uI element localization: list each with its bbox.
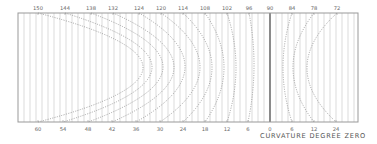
top-label: 102 bbox=[222, 5, 232, 11]
bottom-label: 36 bbox=[133, 126, 140, 132]
dotted-curves bbox=[38, 13, 337, 122]
diagram-caption: CURVATURE DEGREE ZERO bbox=[260, 132, 377, 140]
diagram-frame bbox=[18, 13, 358, 122]
top-label: 138 bbox=[86, 5, 96, 11]
dotted-curve bbox=[205, 13, 224, 122]
bottom-label: 12 bbox=[224, 126, 231, 132]
bottom-label: 30 bbox=[157, 126, 164, 132]
top-label: 84 bbox=[289, 5, 296, 11]
dotted-curve bbox=[283, 13, 292, 122]
dotted-curve bbox=[293, 13, 314, 122]
top-label: 108 bbox=[200, 5, 210, 11]
bottom-label: 60 bbox=[35, 126, 42, 132]
dotted-curve bbox=[307, 13, 337, 122]
top-label: 144 bbox=[60, 5, 71, 11]
top-label: 90 bbox=[267, 5, 274, 11]
dotted-curve bbox=[63, 13, 152, 122]
top-label: 120 bbox=[156, 5, 166, 11]
bottom-label: 54 bbox=[60, 126, 67, 132]
curvature-diagram: 1501441381321241201141081029690847872 60… bbox=[0, 0, 377, 144]
top-label: 124 bbox=[134, 5, 145, 11]
top-label: 114 bbox=[178, 5, 189, 11]
bottom-label: 6 bbox=[246, 126, 249, 132]
top-label: 72 bbox=[334, 5, 341, 11]
dotted-curve bbox=[248, 13, 254, 122]
bottom-label: 42 bbox=[109, 126, 116, 132]
vertical-grid-lines bbox=[24, 13, 354, 122]
top-label: 132 bbox=[108, 5, 118, 11]
dotted-curve bbox=[183, 13, 212, 122]
bottom-label: 18 bbox=[202, 126, 209, 132]
dotted-curve bbox=[88, 13, 163, 122]
top-label: 78 bbox=[311, 5, 318, 11]
bottom-label: 48 bbox=[85, 126, 92, 132]
top-label: 150 bbox=[33, 5, 43, 11]
top-label: 96 bbox=[246, 5, 253, 11]
dotted-curve bbox=[227, 13, 236, 122]
bottom-label: 24 bbox=[180, 126, 187, 132]
